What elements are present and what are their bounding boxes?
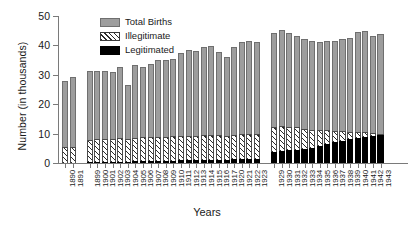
bar-1921	[239, 42, 245, 163]
bar-segment-illegitimate	[254, 134, 260, 159]
bar-1899	[87, 71, 93, 163]
bar-segment-legitimated	[254, 159, 260, 163]
bar-segment-illegitimate	[148, 137, 154, 161]
bar-segment-illegitimate	[186, 136, 192, 161]
x-tick-mark	[282, 164, 283, 168]
x-tick-mark	[90, 164, 91, 168]
x-tick-mark	[73, 164, 74, 168]
bar-segment-illegitimate	[163, 137, 169, 161]
bar-segment-total-births	[286, 33, 292, 127]
bar-segment-legitimated	[125, 162, 131, 163]
y-axis-line	[58, 16, 59, 164]
bar-segment-total-births	[231, 47, 237, 135]
x-tick-mark	[211, 164, 212, 168]
bar-segment-legitimated	[102, 162, 108, 163]
y-tick-mark	[53, 104, 58, 105]
x-axis-title: Years	[0, 206, 414, 218]
x-tick-mark	[358, 164, 359, 168]
bar-segment-illegitimate	[231, 135, 237, 160]
bar-segment-total-births	[301, 39, 307, 129]
bar-segment-total-births	[324, 41, 330, 130]
bar-segment-legitimated	[193, 160, 199, 163]
bar-segment-total-births	[294, 36, 300, 128]
bar-1930	[279, 30, 285, 163]
bar-segment-legitimated	[301, 149, 307, 163]
bar-segment-total-births	[155, 60, 161, 136]
bar-segment-illegitimate	[239, 134, 245, 159]
bar-segment-legitimated	[294, 150, 300, 163]
bar-1910	[170, 59, 176, 163]
bar-segment-total-births	[102, 71, 108, 139]
x-tick-mark	[143, 164, 144, 168]
bar-segment-total-births	[110, 72, 116, 139]
bar-segment-total-births	[370, 36, 376, 133]
bar-segment-illegitimate	[339, 131, 345, 141]
bar-segment-legitimated	[110, 162, 116, 163]
bar-segment-legitimated	[148, 161, 154, 163]
bar-segment-legitimated	[286, 150, 292, 163]
bar-segment-total-births	[309, 41, 315, 129]
bar-segment-legitimated	[155, 161, 161, 163]
bar-1929	[271, 33, 277, 163]
bar-segment-total-births	[87, 71, 93, 140]
x-tick-mark	[113, 164, 114, 168]
bar-1943	[377, 34, 383, 163]
legend-swatch-total-births	[100, 18, 120, 27]
bar-1936	[324, 41, 330, 163]
x-tick-label-1943: 1943	[384, 170, 393, 187]
bar-segment-legitimated	[140, 161, 146, 163]
legend-swatch-illegitimate	[100, 32, 120, 41]
bar-segment-legitimated	[231, 159, 237, 163]
bar-segment-total-births	[317, 42, 323, 130]
bar-1907	[148, 64, 154, 163]
x-tick-mark	[135, 164, 136, 168]
bar-segment-total-births	[239, 42, 245, 134]
x-tick-mark	[274, 164, 275, 168]
bar-1904	[125, 85, 131, 163]
x-tick-mark	[297, 164, 298, 168]
bar-1906	[140, 67, 146, 163]
bar-1939	[347, 38, 353, 163]
bar-segment-illegitimate	[94, 139, 100, 162]
x-tick-mark	[365, 164, 366, 168]
bar-segment-legitimated	[339, 141, 345, 163]
bar-segment-total-births	[347, 38, 353, 132]
legend-item-legitimated: Legitimated	[100, 44, 174, 57]
x-tick-mark	[219, 164, 220, 168]
bar-segment-legitimated	[224, 160, 230, 163]
y-tick-label: 30	[38, 69, 50, 81]
bar-segment-illegitimate	[140, 137, 146, 161]
bar-1942	[370, 36, 376, 163]
bar-segment-legitimated	[170, 161, 176, 163]
bar-1923	[254, 42, 260, 163]
bar-segment-total-births	[246, 41, 252, 134]
bar-segment-illegitimate	[117, 138, 123, 162]
bar-1938	[339, 39, 345, 163]
x-tick-mark	[204, 164, 205, 168]
bar-1920	[231, 47, 237, 163]
x-tick-mark	[151, 164, 152, 168]
births-stacked-bar-chart: Number (in thousands) 01020304050 189018…	[0, 0, 414, 231]
x-tick-mark	[335, 164, 336, 168]
y-tick-label: 50	[38, 10, 50, 22]
bar-segment-illegitimate	[132, 138, 138, 162]
bar-segment-illegitimate	[317, 130, 323, 146]
bar-1935	[317, 42, 323, 163]
x-tick-mark	[97, 164, 98, 168]
bar-segment-legitimated	[239, 159, 245, 163]
bar-segment-legitimated	[246, 159, 252, 163]
bar-segment-illegitimate	[208, 135, 214, 160]
x-tick-mark	[373, 164, 374, 168]
bar-segment-total-births	[224, 57, 230, 136]
bar-segment-legitimated	[347, 139, 353, 163]
x-tick-mark	[173, 164, 174, 168]
y-tick-mark	[53, 134, 58, 135]
bar-1915	[208, 46, 214, 163]
bar-1900	[94, 71, 100, 163]
bar-1901	[102, 71, 108, 163]
x-tick-mark	[196, 164, 197, 168]
bar-segment-illegitimate	[193, 136, 199, 160]
legend-item-illegitimate: Illegitimate	[100, 30, 174, 43]
bar-segment-illegitimate	[87, 140, 93, 163]
bar-segment-legitimated	[208, 160, 214, 163]
